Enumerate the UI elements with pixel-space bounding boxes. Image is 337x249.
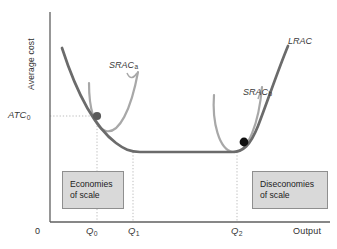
srac-a-leader bbox=[127, 73, 137, 78]
economies-of-scale-line1: Economies bbox=[70, 179, 117, 190]
diseconomies-of-scale-callout: Diseconomies of scale bbox=[252, 171, 328, 209]
economies-of-scale-callout: Economies of scale bbox=[62, 171, 124, 209]
x-tick-q1-subscript: 1 bbox=[135, 230, 139, 237]
cost-curve-figure: Average cost Output 0 Q0 Q1 Q2 ATC0 SRAC… bbox=[0, 0, 337, 249]
x-tick-q1: Q1 bbox=[128, 226, 140, 237]
tangency-point-q0 bbox=[93, 112, 101, 120]
y-tick-atc0-subscript: 0 bbox=[26, 114, 30, 121]
diseconomies-of-scale-line2: of scale bbox=[260, 190, 321, 201]
srac-a-label: SRACa bbox=[109, 61, 138, 71]
srac-b-label-base: SRAC bbox=[243, 87, 268, 97]
x-tick-q2-subscript: 2 bbox=[238, 230, 242, 237]
srac-b-label: SRACb bbox=[243, 88, 272, 98]
plot-canvas bbox=[0, 0, 337, 249]
lrac-curve bbox=[62, 46, 288, 152]
srac-a-label-base: SRAC bbox=[109, 60, 134, 70]
srac-b-label-subscript: b bbox=[268, 90, 272, 97]
x-axis-title: Output bbox=[293, 227, 321, 236]
tangency-point-q2 bbox=[240, 138, 249, 147]
origin-label: 0 bbox=[35, 227, 40, 236]
lrac-label: LRAC bbox=[288, 37, 312, 46]
x-tick-q0-subscript: 0 bbox=[93, 230, 97, 237]
y-tick-atc0-base: ATC bbox=[8, 109, 26, 120]
x-tick-q2: Q2 bbox=[231, 226, 243, 237]
y-tick-atc0: ATC0 bbox=[8, 110, 31, 121]
x-tick-q0: Q0 bbox=[86, 226, 98, 237]
diseconomies-of-scale-line1: Diseconomies bbox=[260, 179, 321, 190]
srac-a-label-subscript: a bbox=[134, 63, 138, 70]
economies-of-scale-line2: of scale bbox=[70, 190, 117, 201]
y-axis-title: Average cost bbox=[27, 38, 36, 90]
